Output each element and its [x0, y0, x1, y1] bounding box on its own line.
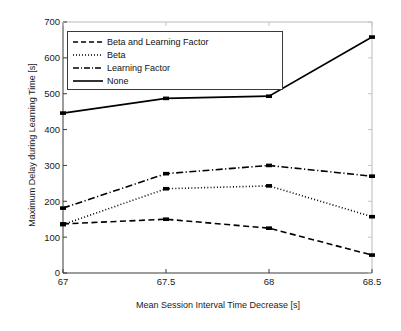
series-beta: [60, 184, 375, 226]
data-point: [266, 94, 272, 98]
legend-swatch-dotted: [72, 49, 104, 61]
data-point: [163, 97, 169, 101]
data-point: [266, 184, 272, 188]
data-point: [163, 187, 169, 191]
data-point: [163, 172, 169, 176]
legend-item-beta: Beta: [72, 48, 278, 61]
data-point: [163, 217, 169, 221]
legend-swatch-dashed: [72, 36, 104, 48]
legend-label-2: Learning Factor: [107, 62, 170, 74]
data-point: [266, 226, 272, 230]
legend-label-3: None: [107, 75, 129, 87]
legend-label-1: Beta: [107, 49, 126, 61]
legend-swatch-dashdot: [72, 62, 104, 74]
data-point: [369, 174, 375, 178]
legend-item-beta-and-learning-factor: Beta and Learning Factor: [72, 35, 278, 48]
chart-legend: Beta and Learning Factor Beta Learning F…: [67, 31, 283, 90]
series-beta-and-learning-factor: [60, 217, 375, 256]
data-point: [60, 206, 66, 210]
legend-item-learning-factor: Learning Factor: [72, 61, 278, 74]
data-point: [60, 111, 66, 115]
legend-item-none: None: [72, 74, 278, 87]
legend-label-0: Beta and Learning Factor: [107, 36, 209, 48]
data-point: [369, 215, 375, 219]
legend-swatch-solid: [72, 75, 104, 87]
chart-figure: Maximum Delay during Learning Time [s] 7…: [0, 0, 401, 331]
data-point: [266, 164, 272, 168]
data-point: [369, 253, 375, 257]
data-point: [369, 35, 375, 39]
data-point: [60, 223, 66, 227]
